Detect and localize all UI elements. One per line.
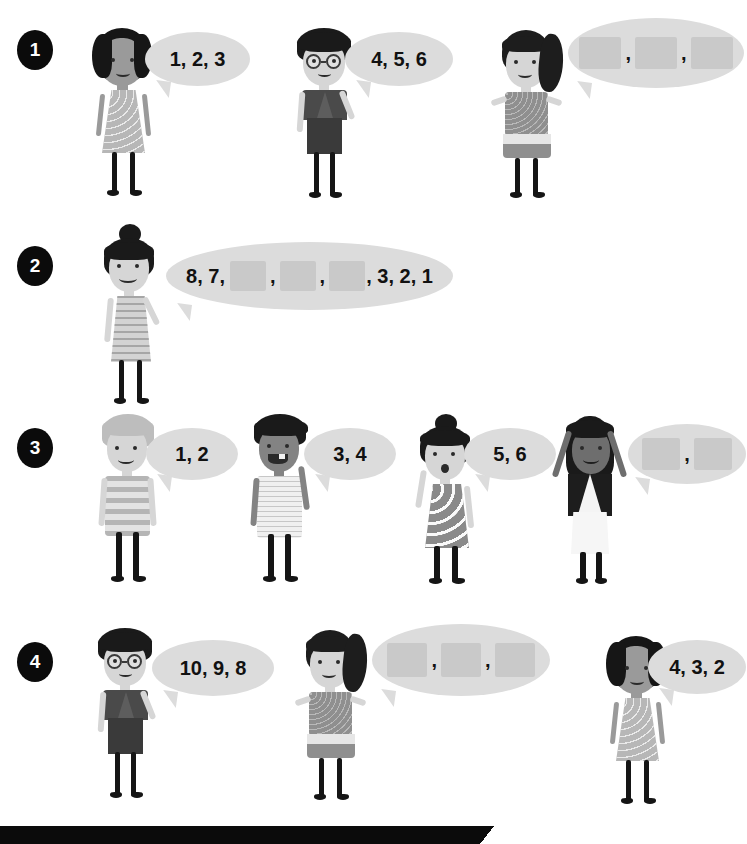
bubble-tail <box>657 688 674 706</box>
character-boy-glasses-dark-shirt <box>84 628 166 796</box>
worksheet-row-3: 3 1, 2 <box>0 400 747 600</box>
separator-comma: , <box>622 42 634 65</box>
row-number-badge-4: 4 <box>17 642 53 682</box>
speech-bubble-r4b1: 10, 9, 8 <box>152 640 274 696</box>
footer-bar-corner <box>480 826 494 844</box>
worksheet-row-4: 4 10, 9, 8 <box>0 600 747 810</box>
answer-blank-2[interactable] <box>441 643 481 677</box>
bubble-tail <box>575 81 592 99</box>
answer-blank-2[interactable] <box>280 261 316 291</box>
bubble-text-before: 8, 7, <box>186 265 225 288</box>
speech-bubble-r3b1: 1, 2 <box>146 428 238 480</box>
speech-bubble-r3b4[interactable]: , <box>628 424 746 484</box>
bubble-text: 1, 2 <box>175 443 208 466</box>
speech-bubble-r1b2: 4, 5, 6 <box>345 32 453 86</box>
bubble-text: 5, 6 <box>493 443 526 466</box>
answer-blank-2[interactable] <box>635 37 677 69</box>
bubble-answer-row: , , <box>386 643 535 677</box>
row-number-badge-1: 1 <box>17 30 53 70</box>
speech-bubble-r1b1: 1, 2, 3 <box>145 32 250 86</box>
bubble-text: 10, 9, 8 <box>180 657 247 680</box>
answer-blank-3[interactable] <box>691 37 733 69</box>
bubble-tail <box>161 690 178 708</box>
speech-bubble-r1b3[interactable]: , , <box>568 18 744 88</box>
separator-comma: , <box>317 265 329 288</box>
speech-bubble-r4b3: 4, 3, 2 <box>648 640 746 694</box>
row-number-badge-2: 2 <box>17 246 53 286</box>
bubble-tail <box>633 477 650 495</box>
bubble-answer-row: , , <box>578 37 733 69</box>
separator-comma: , <box>482 649 494 672</box>
bubble-answer-row: , <box>641 438 733 470</box>
answer-blank-2[interactable] <box>694 438 732 470</box>
bubble-answer-row: 8, 7, , , , 3, 2, 1 <box>186 261 433 291</box>
speech-bubble-r4b2[interactable]: , , <box>372 624 550 696</box>
worksheet-row-1: 1 1, 2, 3 <box>0 0 747 210</box>
character-girl-bun-wavy-dress <box>88 224 174 394</box>
bubble-text-after: , 3, 2, 1 <box>366 265 433 288</box>
answer-blank-1[interactable] <box>230 261 266 291</box>
character-girl-ponytail-shrugging <box>288 628 384 798</box>
footer-bar <box>0 826 480 844</box>
bubble-text: 1, 2, 3 <box>170 48 226 71</box>
answer-blank-1[interactable] <box>642 438 680 470</box>
bubble-text: 4, 3, 2 <box>669 656 725 679</box>
bubble-tail <box>473 474 490 492</box>
bubble-tail <box>155 474 172 492</box>
row-number-badge-3: 3 <box>17 428 53 468</box>
separator-comma: , <box>681 443 693 466</box>
character-girl-arms-up-pinafore <box>540 408 636 580</box>
character-girl-ponytail-shrugging <box>484 28 580 193</box>
bubble-text: 4, 5, 6 <box>371 48 427 71</box>
answer-blank-3[interactable] <box>329 261 365 291</box>
answer-blank-1[interactable] <box>579 37 621 69</box>
bubble-tail <box>379 689 396 707</box>
bubble-tail <box>313 474 330 492</box>
separator-comma: , <box>267 265 279 288</box>
bubble-tail <box>354 80 371 98</box>
bubble-tail <box>154 80 171 98</box>
answer-blank-1[interactable] <box>387 643 427 677</box>
separator-comma: , <box>678 42 690 65</box>
worksheet-page: 1 1, 2, 3 <box>0 0 747 844</box>
separator-comma: , <box>428 649 440 672</box>
answer-blank-3[interactable] <box>495 643 535 677</box>
worksheet-row-2: 2 8, 7, , , <box>0 210 747 400</box>
speech-bubble-r3b2: 3, 4 <box>304 428 396 480</box>
speech-bubble-r2b1[interactable]: 8, 7, , , , 3, 2, 1 <box>166 242 453 310</box>
bubble-text: 3, 4 <box>333 443 366 466</box>
bubble-tail <box>175 303 192 321</box>
